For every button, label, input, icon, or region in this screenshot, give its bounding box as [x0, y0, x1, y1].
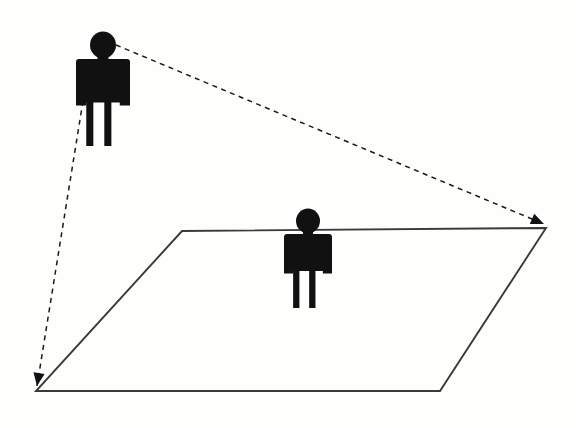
person-left-leg [86, 102, 93, 147]
upper-sight-line [116, 45, 544, 224]
person-torso-and-arms [76, 59, 130, 106]
lower-sight-line [37, 101, 83, 386]
person-right-leg [104, 102, 111, 147]
projected-figure-on-plane [284, 209, 332, 308]
person-torso-and-arms [284, 234, 332, 274]
person-left-leg [293, 270, 299, 308]
projection-diagram [0, 0, 576, 428]
standing-observer-figure [76, 31, 130, 146]
person-right-leg [309, 270, 315, 308]
diagram-canvas: Line drawing: a black pictogram person s… [0, 0, 576, 428]
